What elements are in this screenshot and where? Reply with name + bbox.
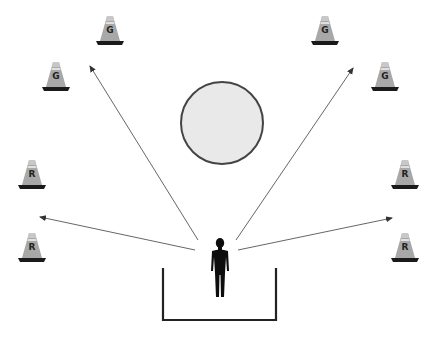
cone-label: R bbox=[402, 169, 409, 179]
cone-mid-left-lower: R bbox=[18, 233, 46, 262]
cone-mid-left-upper: R bbox=[18, 160, 46, 189]
person-icon bbox=[211, 238, 229, 297]
arrow-left bbox=[40, 217, 195, 250]
cone-top-right-upper: G bbox=[311, 16, 339, 45]
cone-label: G bbox=[52, 71, 59, 81]
cone-label: G bbox=[381, 71, 388, 81]
cone-mid-right-upper: R bbox=[391, 160, 419, 189]
cone-label: G bbox=[321, 25, 328, 35]
diagram-svg: GGGGRRRR bbox=[0, 0, 440, 339]
cone-label: R bbox=[29, 242, 36, 252]
cone-label: R bbox=[29, 169, 36, 179]
arrow-top-left bbox=[90, 66, 198, 240]
center-target-circle bbox=[181, 82, 263, 164]
arrow-right bbox=[238, 218, 392, 250]
diagram-canvas: GGGGRRRR bbox=[0, 0, 440, 339]
arrow-top-right bbox=[236, 68, 353, 240]
cone-label: G bbox=[106, 25, 113, 35]
start-box bbox=[163, 268, 276, 320]
cone-top-left-lower: G bbox=[42, 62, 70, 91]
cone-top-right-lower: G bbox=[371, 62, 399, 91]
cone-label: R bbox=[402, 242, 409, 252]
cone-mid-right-lower: R bbox=[391, 233, 419, 262]
cone-top-left-upper: G bbox=[96, 16, 124, 45]
